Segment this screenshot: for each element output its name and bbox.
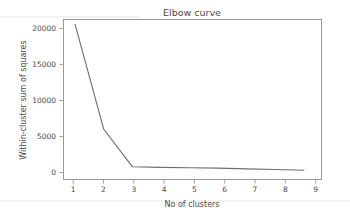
y-tick-marks <box>60 28 64 172</box>
x-tick-marks <box>73 180 315 184</box>
x-axis-label: No of clusters <box>164 200 219 209</box>
y-tick-label: 15000 <box>32 60 56 69</box>
x-tick-label: 6 <box>222 185 227 194</box>
elbow-curve-chart: Elbow curve 20000 15000 10000 5000 0 <box>0 0 350 214</box>
y-tick-label: 20000 <box>32 24 56 33</box>
x-tick-label: 1 <box>71 185 76 194</box>
x-tick-label: 2 <box>101 185 106 194</box>
data-series-line <box>75 24 304 170</box>
x-tick-label: 8 <box>283 185 288 194</box>
y-tick-labels: 20000 15000 10000 5000 0 <box>32 24 56 177</box>
x-tick-label: 3 <box>131 185 136 194</box>
x-tick-label: 5 <box>192 185 197 194</box>
chart-title: Elbow curve <box>163 7 221 18</box>
plot-frame <box>64 20 322 180</box>
y-tick-label: 5000 <box>37 132 56 141</box>
figure-canvas: Elbow curve 20000 15000 10000 5000 0 <box>0 0 350 214</box>
x-tick-label: 9 <box>313 185 318 194</box>
x-tick-labels: 1 2 3 4 5 6 7 8 9 <box>71 185 318 194</box>
y-tick-label: 10000 <box>32 96 56 105</box>
y-tick-label: 0 <box>51 168 56 177</box>
x-tick-label: 4 <box>162 185 167 194</box>
y-axis-label: Within-cluster sum of squares <box>19 40 28 159</box>
x-tick-label: 7 <box>253 185 258 194</box>
